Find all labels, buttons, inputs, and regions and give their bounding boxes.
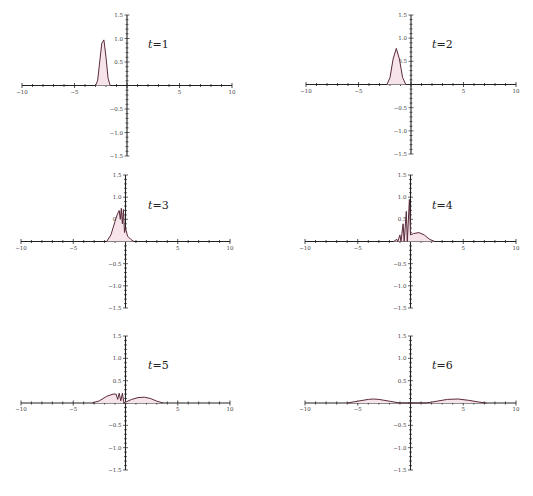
panel-label: t=4 xyxy=(432,199,453,212)
y-tick-label: −1.5 xyxy=(393,305,407,311)
panel-label: t=3 xyxy=(148,199,169,212)
x-tick-label: −5 xyxy=(354,406,363,412)
panel-t2: −10−55101.51.00.5−0.5−1.0−1.5t=2 xyxy=(300,12,520,157)
panel-t4: −10−55101.51.00.5−0.5−1.0−1.5t=4 xyxy=(299,172,520,311)
x-tick-label: −5 xyxy=(69,245,78,251)
panel-label: t=5 xyxy=(148,359,169,372)
x-tick-label: −10 xyxy=(299,245,311,251)
x-tick-label: −10 xyxy=(15,245,27,251)
y-tick-label: 1.5 xyxy=(113,172,122,178)
panel-label: t=1 xyxy=(148,38,169,51)
x-tick-label: −10 xyxy=(16,89,28,95)
y-tick-label: −0.5 xyxy=(394,105,408,111)
x-tick-label: 5 xyxy=(178,89,182,95)
x-tick-label: −5 xyxy=(354,88,363,94)
x-tick-label: 10 xyxy=(227,406,234,412)
x-tick-label: 10 xyxy=(513,406,520,412)
y-tick-label: 1.0 xyxy=(114,36,123,42)
y-tick-label: 1.0 xyxy=(113,194,122,200)
y-tick-label: −1.5 xyxy=(393,467,407,473)
y-tick-label: −1.5 xyxy=(108,467,122,473)
panel-t5: −10−55101.51.00.5−0.5−1.0−1.5t=5 xyxy=(15,333,234,473)
x-tick-label: −5 xyxy=(70,89,79,95)
y-tick-label: −0.5 xyxy=(110,106,124,112)
x-tick-label: −10 xyxy=(300,88,312,94)
y-tick-label: −1.0 xyxy=(110,130,124,136)
y-tick-label: 1.5 xyxy=(398,172,407,178)
y-tick-label: 1.0 xyxy=(398,194,407,200)
panel-t3: −10−55101.51.00.5−0.5−1.0−1.5t=3 xyxy=(15,172,234,311)
y-tick-label: 1.5 xyxy=(398,333,407,339)
y-tick-label: 0.5 xyxy=(114,59,123,65)
panel-t1: −10−55101.51.00.5−0.5−1.0−1.5t=1 xyxy=(16,12,236,159)
y-tick-label: −1.5 xyxy=(108,305,122,311)
y-tick-label: −0.5 xyxy=(393,422,407,428)
y-tick-label: −1.0 xyxy=(393,283,407,289)
y-tick-label: −1.0 xyxy=(108,445,122,451)
x-tick-label: −5 xyxy=(354,245,363,251)
y-tick-label: −1.0 xyxy=(108,283,122,289)
x-tick-label: 5 xyxy=(176,406,180,412)
x-tick-label: 5 xyxy=(462,245,466,251)
x-tick-label: −5 xyxy=(69,406,78,412)
x-tick-label: −10 xyxy=(299,406,311,412)
x-tick-label: 10 xyxy=(227,245,234,251)
y-tick-label: −0.5 xyxy=(108,422,122,428)
y-tick-label: −1.5 xyxy=(394,151,408,157)
y-tick-label: −0.5 xyxy=(393,261,407,267)
x-tick-label: 10 xyxy=(513,88,520,94)
panel-label: t=6 xyxy=(432,359,453,372)
y-tick-label: 1.5 xyxy=(398,12,407,18)
x-tick-label: 5 xyxy=(462,406,466,412)
y-tick-label: −0.5 xyxy=(108,261,122,267)
y-tick-label: 1.5 xyxy=(114,12,123,18)
panel-label: t=2 xyxy=(432,38,453,51)
y-tick-label: −1.0 xyxy=(393,445,407,451)
y-tick-label: 0.5 xyxy=(398,378,407,384)
y-tick-label: 1.5 xyxy=(113,333,122,339)
x-tick-label: 5 xyxy=(462,88,466,94)
y-tick-label: 1.0 xyxy=(398,355,407,361)
y-tick-label: −1.0 xyxy=(394,128,408,134)
curve-fill xyxy=(107,208,134,241)
plot-grid: −10−55101.51.00.5−0.5−1.0−1.5t=1−10−5510… xyxy=(0,0,533,496)
x-tick-label: 5 xyxy=(176,245,180,251)
x-tick-label: 10 xyxy=(513,245,520,251)
x-tick-label: −10 xyxy=(15,406,27,412)
panel-t6: −10−55101.51.00.5−0.5−1.0−1.5t=6 xyxy=(299,333,520,473)
x-tick-label: 10 xyxy=(229,89,236,95)
y-tick-label: 0.5 xyxy=(113,378,122,384)
y-tick-label: 1.0 xyxy=(398,35,407,41)
y-tick-label: −1.5 xyxy=(110,153,124,159)
y-tick-label: 1.0 xyxy=(113,355,122,361)
